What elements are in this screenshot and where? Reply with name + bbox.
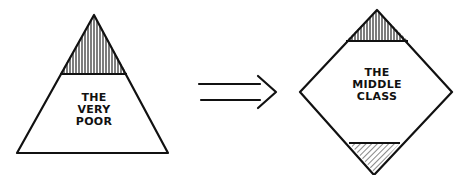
transition-arrow-icon bbox=[199, 76, 276, 108]
triangle-shaded-top bbox=[60, 15, 127, 74]
diamond-label: THE MIDDLE CLASS bbox=[347, 67, 407, 103]
triangle-shape bbox=[17, 15, 168, 153]
diamond-shaded-top bbox=[346, 10, 408, 41]
triangle-label: THE VERY POOR bbox=[64, 92, 124, 128]
label-line: POOR bbox=[64, 116, 124, 128]
diamond-shaded-bottom bbox=[349, 143, 400, 172]
label-line: CLASS bbox=[347, 91, 407, 103]
